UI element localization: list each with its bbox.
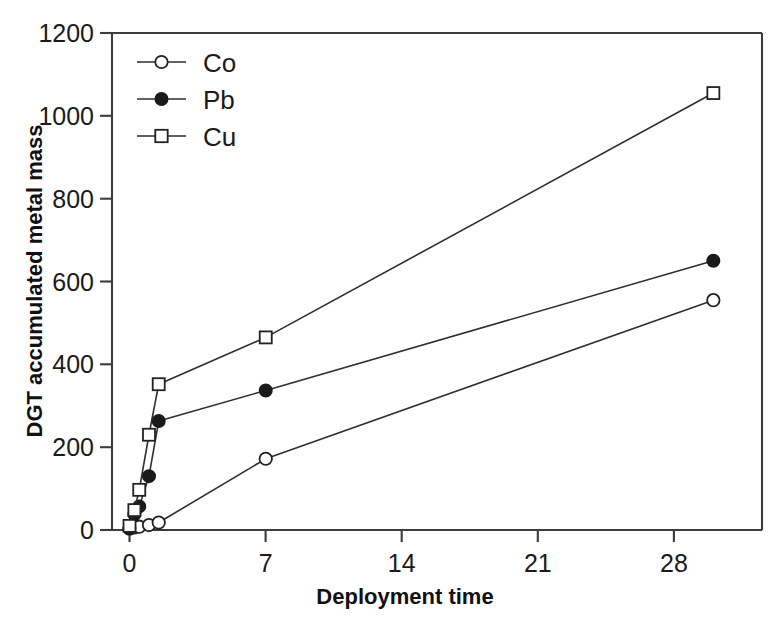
- y-tick-label-400: 400: [52, 350, 94, 378]
- x-tick-label-28: 28: [660, 549, 688, 577]
- y-tick-label-600: 600: [52, 268, 94, 296]
- chart-svg: 0 200 400 600 800 1000 1200 0 7 14 21 28…: [0, 0, 780, 619]
- x-tick-label-0: 0: [123, 549, 137, 577]
- legend-marker-cu-open-square-icon: [155, 130, 167, 142]
- y-tick-label-0: 0: [80, 516, 94, 544]
- y-tick-label-1200: 1200: [38, 19, 94, 47]
- legend-label-co: Co: [203, 48, 236, 78]
- x-axis-title: Deployment time: [316, 584, 493, 609]
- data-point-pb: [260, 384, 272, 396]
- x-tick-label-14: 14: [388, 549, 416, 577]
- legend-label-pb: Pb: [203, 85, 235, 115]
- legend-marker-pb-filled-circle-icon: [155, 93, 167, 105]
- legend-marker-co-open-circle-icon: [155, 56, 167, 68]
- data-point-co: [260, 453, 272, 465]
- x-tick-label-7: 7: [259, 549, 273, 577]
- data-point-cu: [133, 484, 145, 496]
- data-point-pb: [143, 470, 155, 482]
- y-axis-title: DGT accumulated metal mass: [22, 124, 47, 437]
- data-point-cu: [153, 378, 165, 390]
- data-point-cu: [260, 331, 272, 343]
- data-point-pb: [153, 415, 165, 427]
- data-point-co: [707, 294, 719, 306]
- data-point-cu: [128, 504, 140, 516]
- legend-label-cu: Cu: [203, 122, 236, 152]
- chart-figure: 0 200 400 600 800 1000 1200 0 7 14 21 28…: [0, 0, 780, 619]
- data-point-pb: [707, 255, 719, 267]
- data-point-cu: [143, 429, 155, 441]
- data-point-co: [153, 516, 165, 528]
- y-tick-label-800: 800: [52, 185, 94, 213]
- data-point-cu: [124, 520, 136, 532]
- chart-background: [0, 0, 780, 619]
- data-point-cu: [707, 87, 719, 99]
- x-tick-label-21: 21: [524, 549, 552, 577]
- y-tick-label-200: 200: [52, 433, 94, 461]
